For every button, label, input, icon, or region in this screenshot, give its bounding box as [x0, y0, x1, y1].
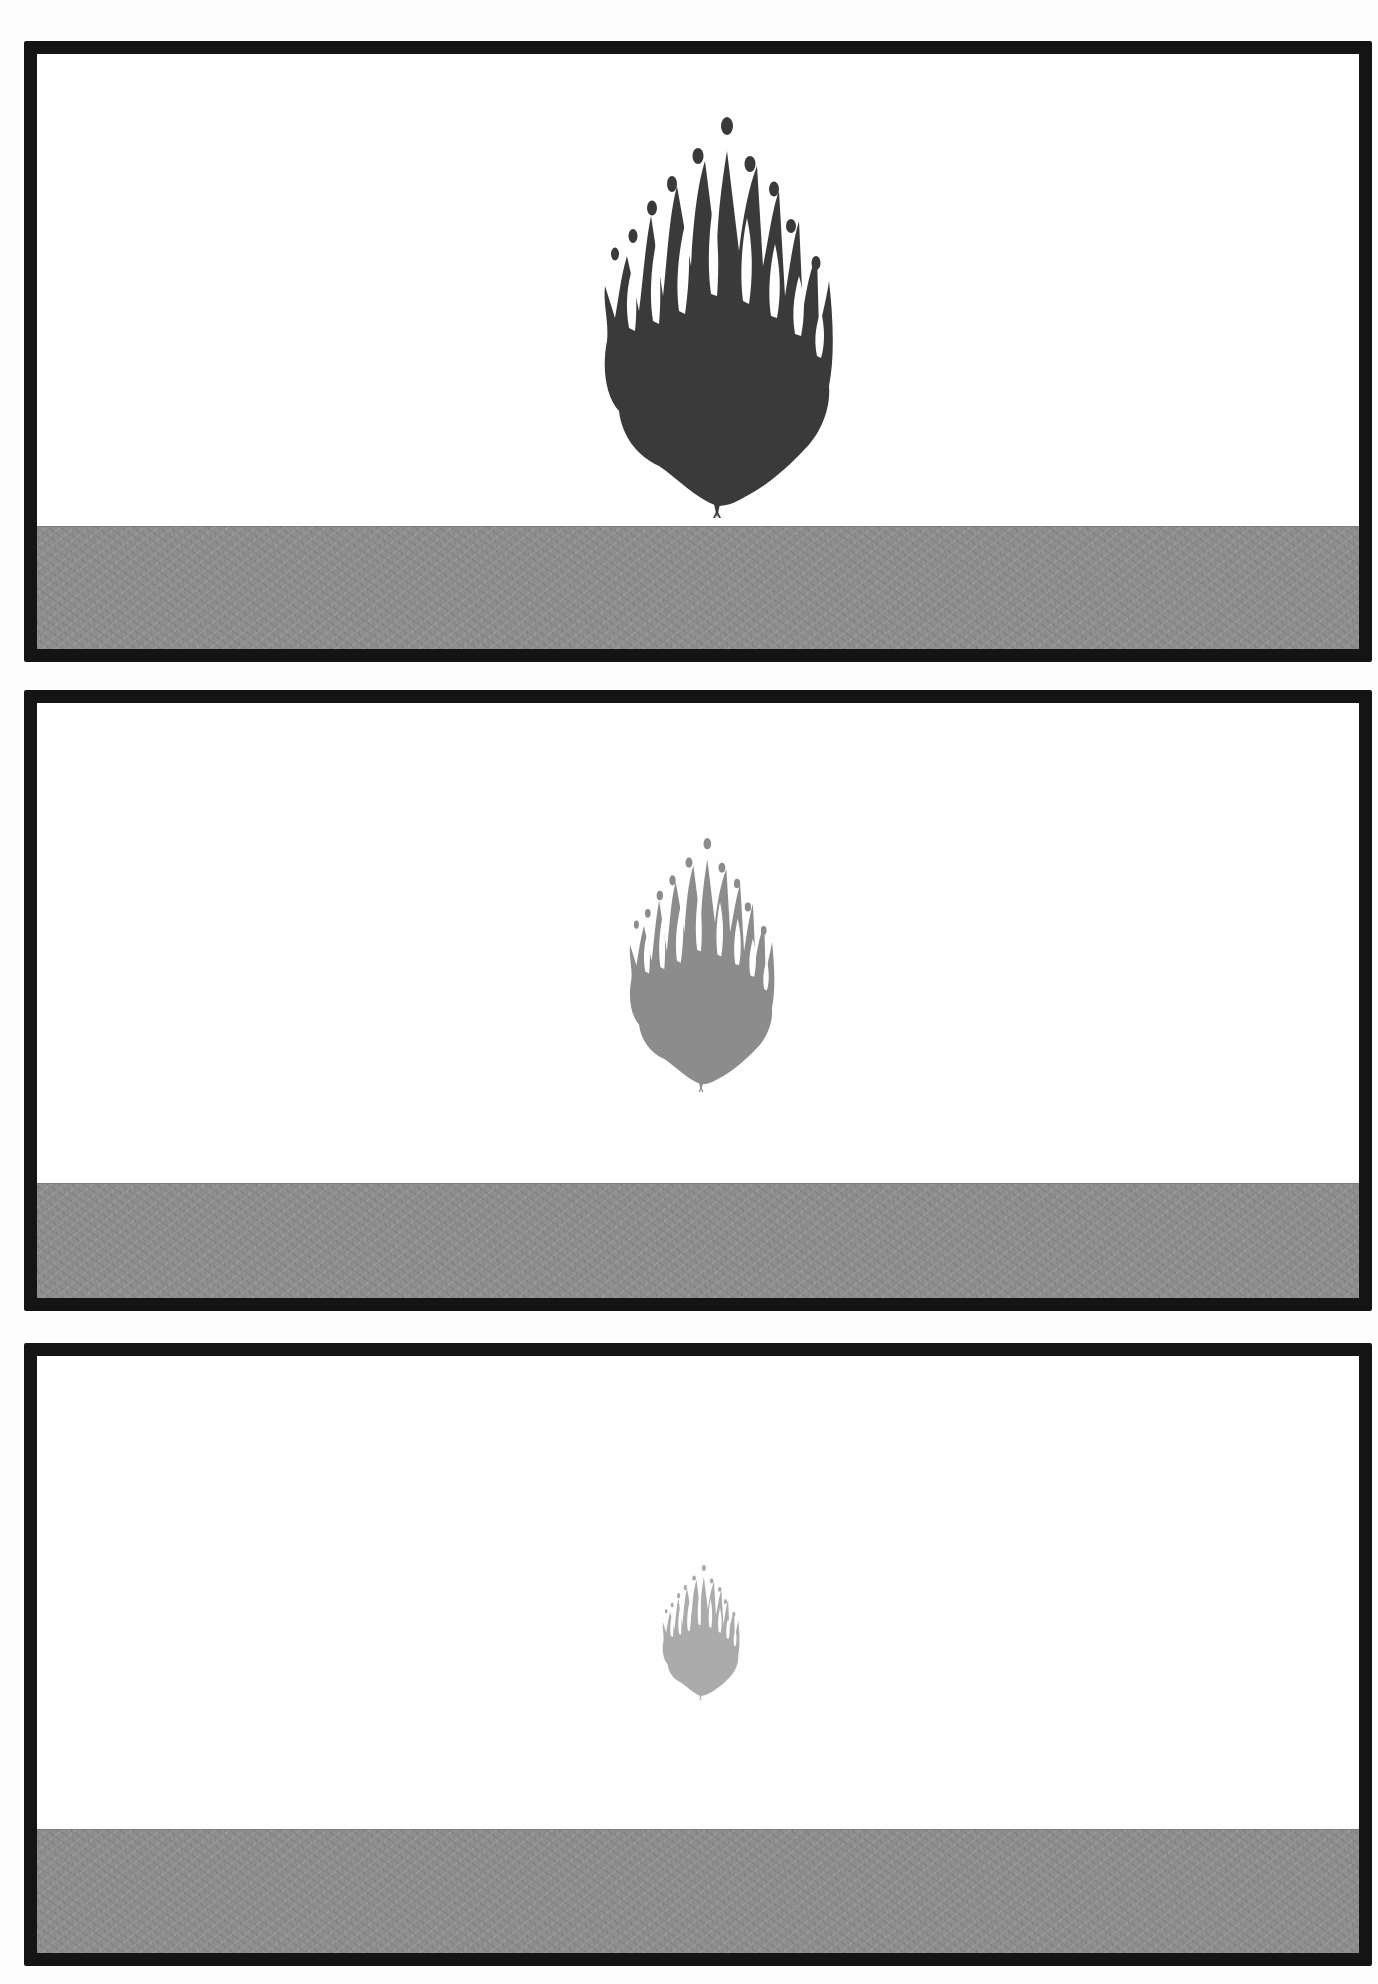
ground — [37, 1829, 1359, 1953]
panel-3: Small light-gray flame hovering above gr… — [24, 1343, 1372, 1966]
ground — [37, 1183, 1359, 1298]
panel-2: Medium gray flame hovering above ground — [24, 690, 1372, 1311]
flame-icon — [606, 831, 796, 1097]
flame-icon — [650, 1561, 751, 1703]
ground — [37, 526, 1359, 649]
flame-icon — [567, 106, 867, 526]
panel-1: Large dark flame hovering above ground — [24, 41, 1372, 662]
